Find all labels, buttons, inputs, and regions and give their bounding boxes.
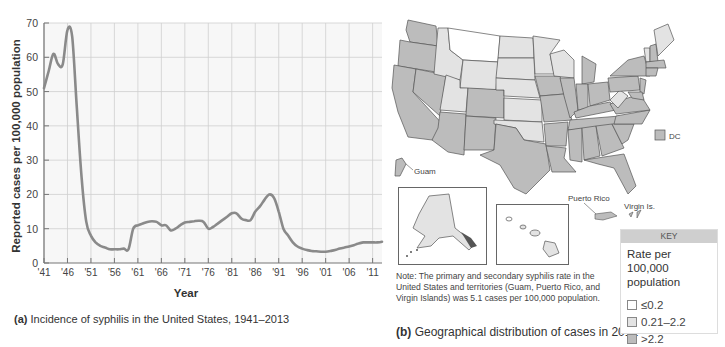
- y-tick-label: 0: [32, 257, 38, 269]
- puerto-rico-shape: [595, 212, 617, 220]
- x-tick-label: '91: [272, 267, 285, 278]
- state-hawaii: [543, 241, 559, 257]
- x-tick-label: '61: [131, 267, 144, 278]
- legend-item-low: ≤0.2: [621, 297, 717, 312]
- map-legend: KEY Rate per 100,000 population ≤0.2 0.2…: [620, 229, 718, 334]
- x-tick-label: '81: [225, 267, 238, 278]
- x-tick-label: '96: [296, 267, 309, 278]
- state-kansas: [504, 98, 542, 122]
- legend-title: Rate per 100,000 population: [621, 243, 717, 289]
- state-north-dakota: [498, 36, 534, 58]
- x-tick-label: '41: [37, 267, 50, 278]
- x-tick-label: '06: [343, 267, 356, 278]
- virgin-islands-shape: [629, 210, 641, 218]
- legend-item-high: >2.2: [621, 331, 717, 346]
- x-tick-label: '56: [108, 267, 121, 278]
- x-tick-label: '71: [178, 267, 191, 278]
- guam-label: Guam: [414, 167, 436, 176]
- legend-header: KEY: [621, 230, 717, 243]
- state-colorado: [466, 88, 504, 118]
- caption-text-a: Incidence of syphilis in the United Stat…: [31, 313, 290, 325]
- alaska-inset: [398, 187, 487, 265]
- state-alaska: [413, 194, 475, 250]
- legend-swatch-low: [627, 300, 637, 310]
- us-map: DC Guam Puerto Rico Virgin Is.: [388, 0, 725, 215]
- state-michigan: [582, 56, 596, 84]
- state-maine: [654, 24, 674, 56]
- y-tick-label: 20: [26, 188, 38, 200]
- y-tick-label: 10: [26, 223, 38, 235]
- state-new-jersey: [640, 78, 646, 94]
- geographic-distribution-panel: DC Guam Puerto Rico Virgin Is. Note: The…: [388, 0, 725, 347]
- syphilis-incidence-chart-panel: '41'46'51'56'61'66'71'76'81'86'91'96'01'…: [0, 0, 385, 347]
- map-note: Note: The primary and secondary syphilis…: [396, 271, 611, 304]
- legend-label-mid: 0.21–2.2: [641, 316, 686, 328]
- x-tick-label: '76: [202, 267, 215, 278]
- legend-item-mid: 0.21–2.2: [621, 314, 717, 329]
- legend-swatch-high: [627, 334, 637, 344]
- map-caption: (b) Geographical distribution of cases i…: [396, 325, 638, 339]
- caption-label-b: (b): [396, 325, 411, 339]
- state-indiana: [576, 84, 588, 110]
- y-tick-label: 70: [26, 17, 38, 29]
- state-iowa: [535, 76, 564, 96]
- x-tick-label: '46: [61, 267, 74, 278]
- legend-swatch-mid: [627, 317, 637, 327]
- y-tick-label: 50: [26, 86, 38, 98]
- y-axis-label: Reported cases per 100,000 population: [10, 39, 22, 252]
- x-tick-label: '11: [366, 267, 379, 278]
- x-axis-label: Year: [174, 287, 199, 299]
- hawaii-inset: [496, 204, 569, 265]
- state-florida: [584, 154, 636, 194]
- state-new-mexico: [464, 116, 496, 150]
- dc-swatch: [655, 130, 665, 140]
- y-tick-label: 40: [26, 120, 38, 132]
- guam-leader: [406, 164, 413, 170]
- caption-text-b: Geographical distribution of cases in 20…: [415, 325, 638, 339]
- y-tick-label: 30: [26, 154, 38, 166]
- dc-label: DC: [669, 132, 681, 141]
- state-south-dakota: [496, 58, 535, 80]
- x-tick-label: '01: [319, 267, 332, 278]
- state-wyoming: [460, 60, 498, 90]
- x-tick-label: '86: [249, 267, 262, 278]
- state-pennsylvania: [608, 76, 640, 92]
- chart-caption: (a) Incidence of syphilis in the United …: [14, 313, 289, 325]
- guam-shape: [395, 158, 406, 176]
- y-tick-label: 60: [26, 51, 38, 63]
- territories: [593, 208, 653, 228]
- x-tick-label: '51: [84, 267, 97, 278]
- legend-label-high: >2.2: [641, 333, 664, 345]
- legend-label-low: ≤0.2: [641, 299, 663, 311]
- state-connecticut: [646, 68, 658, 76]
- line-chart: '41'46'51'56'61'66'71'76'81'86'91'96'01'…: [0, 0, 385, 300]
- caption-label-a: (a): [14, 313, 27, 325]
- state-arkansas: [544, 122, 568, 146]
- puerto-rico-label: Puerto Rico: [568, 194, 610, 203]
- state-wisconsin: [550, 50, 574, 78]
- state-new-york: [610, 56, 650, 76]
- x-tick-label: '66: [155, 267, 168, 278]
- state-mississippi: [568, 128, 582, 162]
